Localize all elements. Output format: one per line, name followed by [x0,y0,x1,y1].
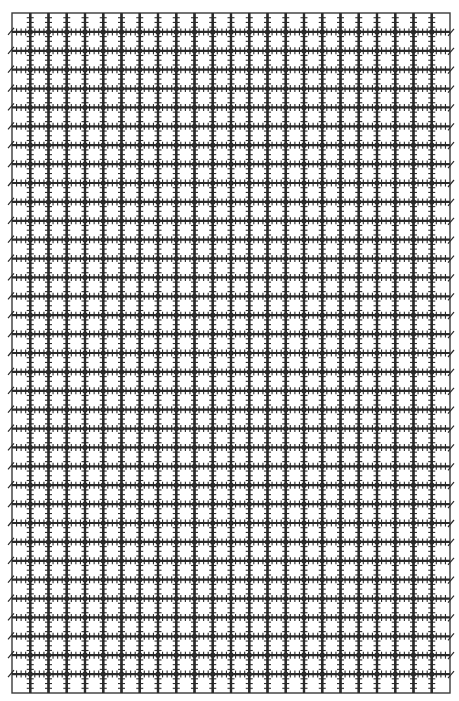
grid-node [356,407,361,412]
grid-node [393,162,398,167]
grid-node [82,464,87,469]
grid-node [265,29,270,34]
grid-node [283,369,288,374]
grid-node [119,615,124,620]
grid-node [119,143,124,148]
grid-node [192,596,197,601]
grid-node [247,162,252,167]
grid-node [265,313,270,318]
grid-node [119,388,124,393]
grid-node [174,577,179,582]
grid-node [210,445,215,450]
grid-node [82,143,87,148]
grid-node [429,350,434,355]
grid-node [283,180,288,185]
grid-node [210,350,215,355]
grid-node [338,86,343,91]
grid-node [28,180,33,185]
grid-node [374,539,379,544]
grid-node [64,332,69,337]
grid-node [119,48,124,53]
grid-node [46,464,51,469]
grid-node [265,653,270,658]
grid-node [64,48,69,53]
grid-node [228,502,233,507]
grid-node [320,313,325,318]
grid-node [119,596,124,601]
grid-node [174,67,179,72]
grid-node [137,29,142,34]
grid-node [119,407,124,412]
grid-node [228,237,233,242]
grid-node [247,520,252,525]
grid-node [393,634,398,639]
grid-node [228,596,233,601]
grid-node [265,48,270,53]
grid-node [46,256,51,261]
grid-node [119,672,124,677]
grid-node [283,539,288,544]
grid-node [46,520,51,525]
grid-node [137,672,142,677]
grid-node [338,294,343,299]
grid-node [46,29,51,34]
grid-node [137,520,142,525]
grid-node [228,294,233,299]
grid-node [155,124,160,129]
grid-node [374,520,379,525]
grid-node [356,86,361,91]
grid-node [137,426,142,431]
grid-node [320,162,325,167]
grid-node [137,558,142,563]
grid-node [155,332,160,337]
grid-node [429,426,434,431]
grid-node [356,313,361,318]
grid-node [64,520,69,525]
grid-node [429,615,434,620]
grid-node [429,294,434,299]
grid-node [301,596,306,601]
grid-node [101,294,106,299]
grid-node [101,313,106,318]
grid-node [338,48,343,53]
grid-node [265,539,270,544]
grid-node [101,199,106,204]
grid-node [283,577,288,582]
grid-node [228,407,233,412]
grid-node [429,237,434,242]
grid-node [411,199,416,204]
grid-paper: Decorative graph-paper grid with hash-ma… [0,0,459,701]
grid-node [320,502,325,507]
grid-node [320,218,325,223]
grid-node [265,180,270,185]
grid-node [247,369,252,374]
grid-node [64,615,69,620]
grid-node [411,48,416,53]
grid-node [338,350,343,355]
grid-node [155,369,160,374]
grid-node [28,237,33,242]
grid-node [393,199,398,204]
grid-node [429,67,434,72]
grid-node [320,407,325,412]
grid-node [265,615,270,620]
grid-node [247,294,252,299]
grid-node [210,577,215,582]
grid-node [320,67,325,72]
grid-node [393,558,398,563]
grid-node [119,237,124,242]
grid-node [64,124,69,129]
grid-node [429,275,434,280]
grid-node [46,313,51,318]
grid-node [320,105,325,110]
grid-node [101,162,106,167]
grid-node [338,105,343,110]
grid-node [356,653,361,658]
grid-node [119,162,124,167]
grid-node [356,143,361,148]
grid-node [228,577,233,582]
grid-node [192,369,197,374]
grid-node [283,29,288,34]
grid-node [101,275,106,280]
grid-node [174,294,179,299]
